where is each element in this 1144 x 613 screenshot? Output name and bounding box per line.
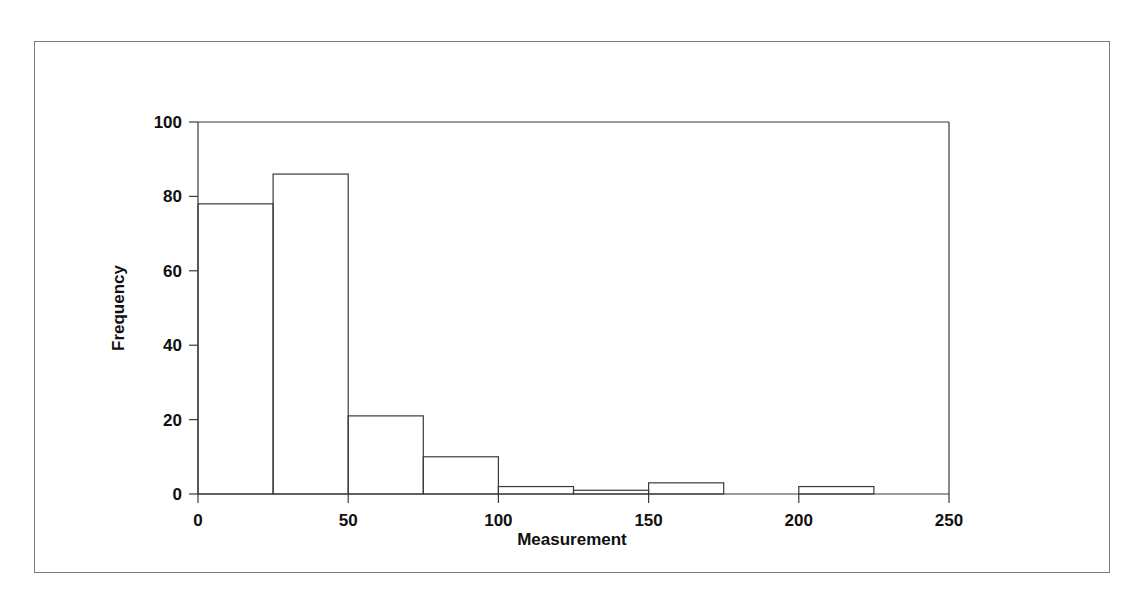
y-axis-ticks <box>189 122 198 494</box>
y-tick-label: 20 <box>163 411 182 430</box>
y-axis-tick-labels: 020406080100 <box>154 113 182 504</box>
x-tick-label: 250 <box>935 511 963 530</box>
histogram-figure: 050100150200250 020406080100 Measurement… <box>0 0 1144 613</box>
y-tick-label: 60 <box>163 262 182 281</box>
histogram-bar <box>498 487 573 494</box>
y-tick-label: 40 <box>163 336 182 355</box>
histogram-bar <box>649 483 724 494</box>
histogram-bar <box>198 204 273 494</box>
axis-lines <box>198 122 949 494</box>
y-axis-title: Frequency <box>109 264 128 351</box>
x-tick-label: 100 <box>484 511 512 530</box>
plot-canvas: 050100150200250 020406080100 Measurement… <box>0 0 1144 613</box>
y-tick-label: 0 <box>173 485 182 504</box>
x-axis-tick-labels: 050100150200250 <box>193 511 963 530</box>
y-tick-label: 100 <box>154 113 182 132</box>
x-tick-label: 50 <box>339 511 358 530</box>
histogram-bars <box>198 174 874 494</box>
x-tick-label: 150 <box>634 511 662 530</box>
histogram-bar <box>348 416 423 494</box>
x-tick-label: 0 <box>193 511 202 530</box>
x-tick-label: 200 <box>785 511 813 530</box>
x-axis-title: Measurement <box>517 530 627 549</box>
histogram-bar <box>273 174 348 494</box>
histogram-bar <box>799 487 874 494</box>
y-tick-label: 80 <box>163 187 182 206</box>
x-axis-ticks <box>198 494 949 503</box>
histogram-bar <box>423 457 498 494</box>
